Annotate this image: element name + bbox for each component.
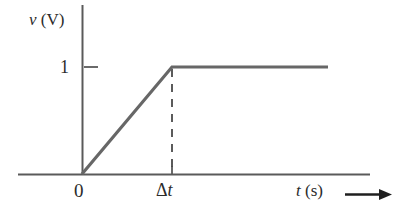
x-axis-arrow-icon [345,189,392,200]
y-axis-symbol: v [29,10,37,29]
voltage-vs-time-figure: v (V) 1 0 Δt t (s) [0,0,398,209]
x-axis-label: t (s) [296,182,323,199]
plot-area [0,0,398,209]
x-axis-unit: (s) [305,181,323,200]
y-axis-unit: (V) [41,10,65,29]
y-tick-label-1: 1 [60,58,69,76]
x-origin-label: 0 [74,181,84,200]
voltage-waveform-line [82,67,328,174]
y-axis-label: v (V) [29,11,64,28]
delta-symbol: Δ [156,180,168,200]
t-symbol: t [168,180,173,200]
x-tick-label-delta-t: Δt [156,181,173,199]
